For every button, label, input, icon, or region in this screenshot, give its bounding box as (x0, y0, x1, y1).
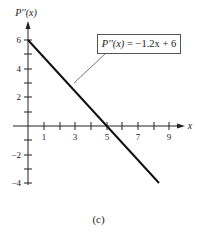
x-tick-label: 3 (73, 132, 78, 142)
x-tick-label: 5 (105, 132, 110, 142)
equation-expression: = −1.2x + 6 (124, 38, 176, 49)
x-axis-title: x (187, 120, 193, 131)
y-tick-label: −2 (11, 150, 21, 160)
y-tick-label: 4 (17, 64, 22, 74)
equation-label-box: P''(x) = −1.2x + 6 (97, 34, 181, 54)
y-axis-title: P''(x) (14, 7, 37, 19)
annotation-leader (74, 54, 105, 83)
series-line (28, 40, 159, 183)
y-tick-label: 6 (17, 35, 22, 45)
figure-caption: (c) (0, 213, 197, 225)
y-tick-label: 2 (17, 92, 22, 102)
y-tick-label: −4 (11, 178, 21, 188)
x-axis-arrow-icon (177, 124, 185, 129)
x-tick-label: 7 (136, 132, 141, 142)
x-tick-label: 9 (167, 132, 172, 142)
y-axis-arrow-icon (26, 21, 31, 29)
x-tick-label: 1 (42, 132, 47, 142)
equation-function: P''(x) (102, 38, 125, 49)
